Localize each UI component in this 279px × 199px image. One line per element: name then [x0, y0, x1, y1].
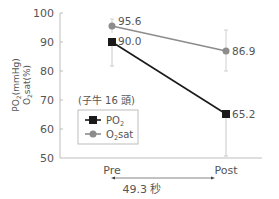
value-label-po2-pre: 90.0 [118, 35, 141, 47]
duration-arrow [111, 177, 215, 180]
y-tick-label: 100 [33, 7, 54, 20]
y-tick-label: 60 [40, 123, 54, 136]
y-tick-label: 90 [40, 36, 54, 49]
marker-o2sat-pre [109, 23, 116, 30]
line-chart: 100 90 80 70 60 50 PO2(mmHg) O2sat(%) Pr… [0, 0, 279, 199]
marker-o2sat-post [223, 48, 230, 55]
value-label-o2sat-pre: 95.6 [118, 15, 142, 27]
svg-text:O2sat(%): O2sat(%) [22, 65, 33, 105]
x-category-post: Post [214, 164, 238, 177]
duration-label: 49.3 秒 [123, 182, 162, 196]
x-category-pre: Pre [103, 164, 121, 177]
legend-title: (子牛 16 頭) [78, 94, 135, 106]
y-tick-label: 70 [40, 94, 54, 107]
y-tick-label: 50 [40, 152, 54, 165]
value-label-o2sat-post: 86.9 [232, 45, 255, 57]
svg-text:PO2(mmHg): PO2(mmHg) [11, 58, 22, 111]
y-axis-title: PO2(mmHg) O2sat(%) [11, 58, 33, 111]
marker-po2-post [222, 110, 230, 118]
y-tick-label: 80 [40, 65, 54, 78]
marker-po2-pre [108, 38, 116, 46]
value-label-po2-post: 65.2 [232, 108, 255, 120]
